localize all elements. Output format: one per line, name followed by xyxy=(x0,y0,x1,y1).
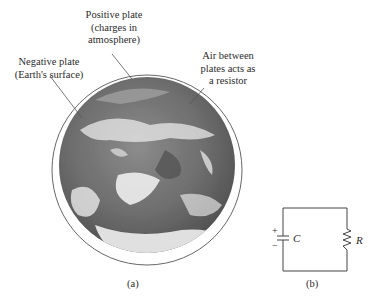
earth-globe xyxy=(59,77,235,262)
caption-a: (a) xyxy=(127,278,139,289)
caption-b: (b) xyxy=(306,278,318,289)
capacitor-plus-sign: + xyxy=(272,225,278,236)
label-negative-plate: Negative plate (Earth's surface) xyxy=(8,56,90,81)
capacitor-label: C xyxy=(293,232,300,244)
label-line: atmosphere) xyxy=(70,34,158,47)
leader-positive xyxy=(112,54,132,79)
capacitor-minus-sign: − xyxy=(272,240,278,251)
label-air-resistor: Air between plates acts as a resistor xyxy=(188,50,268,88)
resistor-label: R xyxy=(356,234,363,246)
resistor-zigzag xyxy=(343,229,351,250)
leader-negative xyxy=(50,76,82,118)
rc-circuit xyxy=(277,208,351,271)
diagram-canvas xyxy=(0,0,378,306)
label-line: (charges in xyxy=(70,22,158,35)
label-positive-plate: Positive plate (charges in atmosphere) xyxy=(70,9,158,47)
label-line: Positive plate xyxy=(70,9,158,22)
label-line: plates acts as xyxy=(188,63,268,76)
label-line: (Earth's surface) xyxy=(8,69,90,82)
label-line: a resistor xyxy=(188,75,268,88)
label-line: Negative plate xyxy=(8,56,90,69)
label-line: Air between xyxy=(188,50,268,63)
